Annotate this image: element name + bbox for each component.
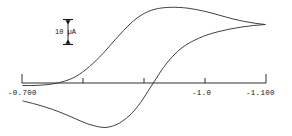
axis-label-right: -1.100 xyxy=(246,90,275,98)
axis-label-mid: -1.0 xyxy=(192,90,211,98)
voltammogram-plot xyxy=(0,0,292,136)
axis-label-left: -0.700 xyxy=(8,90,37,98)
cv-traces xyxy=(23,7,265,127)
forward-scan-trace xyxy=(23,25,265,128)
x-axis xyxy=(22,74,266,83)
scale-bar-label: 10 µA xyxy=(55,29,76,36)
reverse-scan-trace xyxy=(23,7,265,85)
cyclic-voltammogram-figure: -0.700 -1.0 -1.100 10 µA xyxy=(0,0,292,136)
scale-bar-arrow-up xyxy=(65,20,70,24)
scale-bar-arrow-down xyxy=(65,40,70,44)
